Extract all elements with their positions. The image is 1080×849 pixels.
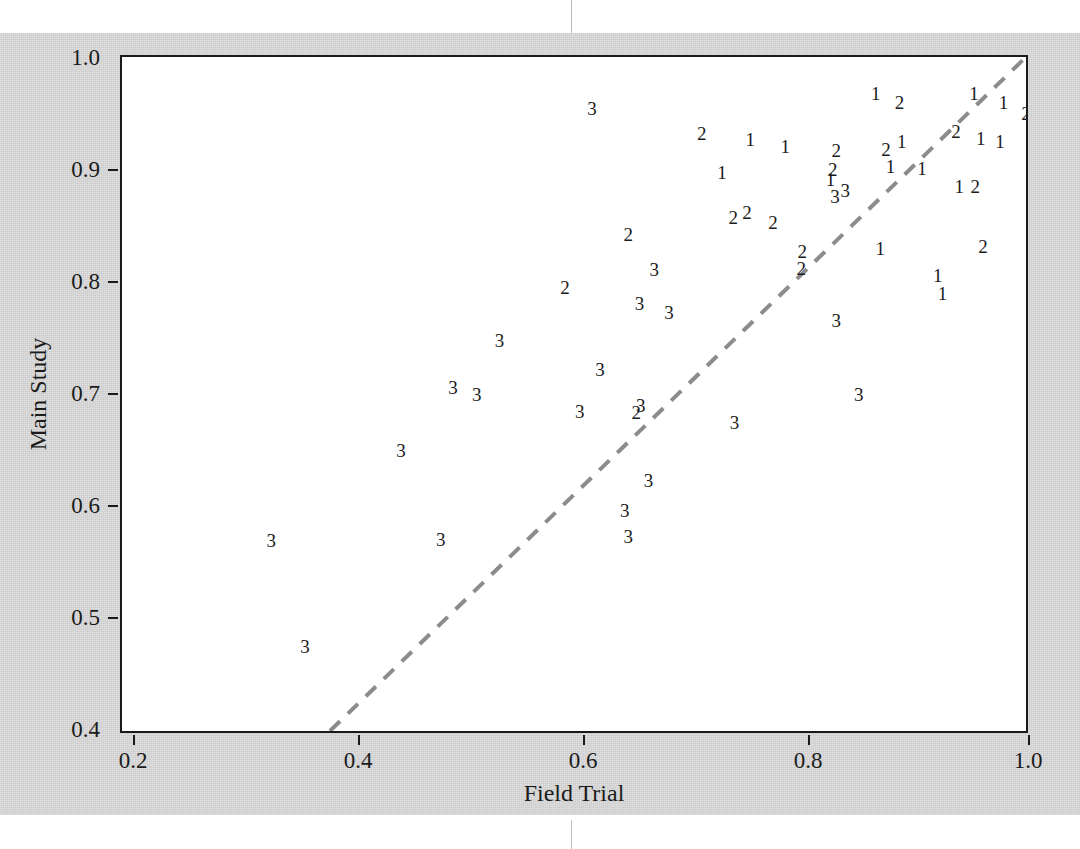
- x-tick-label-1.0: 1.0: [1014, 748, 1043, 774]
- x-axis-title: Field Trial: [524, 780, 625, 807]
- data-point-group-3: 3: [495, 331, 505, 350]
- y-tick-mark-0.5: [108, 617, 118, 619]
- data-point-group-2: 2: [951, 122, 961, 141]
- y-tick-label-0.8: 0.8: [71, 269, 106, 295]
- data-point-group-2: 2: [560, 278, 570, 297]
- data-point-group-3: 3: [830, 187, 840, 206]
- data-point-group-1: 1: [897, 132, 907, 151]
- y-tick-mark-0.9: [108, 169, 118, 171]
- data-point-group-1: 1: [999, 92, 1009, 111]
- data-point-group-1: 1: [717, 162, 727, 181]
- data-point-group-2: 2: [697, 124, 707, 143]
- data-point-group-3: 3: [266, 531, 276, 550]
- page-fold-line-top: [571, 0, 572, 33]
- data-point-group-3: 3: [831, 310, 841, 329]
- x-tick-mark-0.4: [358, 735, 360, 745]
- data-point-group-3: 3: [854, 385, 864, 404]
- data-point-group-2: 2: [623, 225, 633, 244]
- data-point-group-3: 3: [396, 441, 406, 460]
- y-tick-mark-0.8: [108, 281, 118, 283]
- data-point-group-2: 2: [828, 160, 838, 179]
- data-point-group-1: 1: [995, 132, 1005, 151]
- data-point-group-3: 3: [649, 260, 659, 279]
- x-tick-label-0.6: 0.6: [569, 748, 598, 774]
- data-point-group-3: 3: [644, 471, 654, 490]
- x-tick-label-0.4: 0.4: [344, 748, 373, 774]
- data-point-group-3: 3: [300, 636, 310, 655]
- data-point-group-1: 1: [917, 159, 927, 178]
- x-tick-mark-0.8: [808, 735, 810, 745]
- data-point-group-2: 2: [768, 213, 778, 232]
- data-point-group-2: 2: [970, 177, 980, 196]
- y-tick-label-1.0: 1.0: [71, 45, 106, 71]
- y-tick-mark-0.7: [108, 393, 118, 395]
- plot-area: 3211121122112211111212332222212231123333…: [122, 57, 1026, 731]
- data-point-group-3: 3: [575, 401, 585, 420]
- plot-frame: 3211121122112211111212332222212231123333…: [120, 55, 1028, 733]
- data-point-group-3: 3: [620, 500, 630, 519]
- data-point-group-1: 1: [969, 83, 979, 102]
- y-tick-mark-0.6: [108, 505, 118, 507]
- data-point-group-2: 2: [978, 236, 988, 255]
- data-point-group-3: 3: [840, 180, 850, 199]
- data-point-group-2: 2: [796, 259, 806, 278]
- data-point-group-1: 1: [976, 128, 986, 147]
- data-point-group-3: 3: [587, 98, 597, 117]
- data-point-group-3: 3: [636, 396, 646, 415]
- x-tick-mark-0.6: [583, 735, 585, 745]
- data-point-group-2: 2: [1021, 104, 1026, 123]
- data-point-group-3: 3: [730, 413, 740, 432]
- data-point-group-3: 3: [595, 360, 605, 379]
- data-point-group-3: 3: [635, 294, 645, 313]
- data-point-group-2: 2: [831, 141, 841, 160]
- y-axis-title: Main Study: [25, 338, 52, 451]
- data-point-group-3: 3: [664, 302, 674, 321]
- data-point-group-1: 1: [871, 83, 881, 102]
- data-point-group-2: 2: [742, 203, 752, 222]
- y-tick-label-0.4: 0.4: [71, 717, 106, 743]
- data-point-group-3: 3: [448, 378, 458, 397]
- x-tick-mark-1.0: [1028, 735, 1030, 745]
- data-point-group-2: 2: [895, 92, 905, 111]
- data-point-group-3: 3: [623, 526, 633, 545]
- page-fold-line-bottom: [571, 820, 572, 849]
- x-tick-label-0.2: 0.2: [119, 748, 148, 774]
- y-tick-label-0.6: 0.6: [71, 493, 106, 519]
- data-point-group-2: 2: [729, 207, 739, 226]
- data-point-group-1: 1: [875, 238, 885, 257]
- data-point-group-1: 1: [886, 156, 896, 175]
- x-tick-mark-0.2: [133, 735, 135, 745]
- data-point-group-1: 1: [746, 130, 756, 149]
- y-tick-label-0.9: 0.9: [71, 157, 106, 183]
- y-tick-label-0.5: 0.5: [71, 605, 106, 631]
- data-point-group-3: 3: [472, 385, 482, 404]
- data-point-group-3: 3: [436, 529, 446, 548]
- data-point-group-1: 1: [955, 177, 965, 196]
- data-point-group-1: 1: [938, 283, 948, 302]
- x-tick-label-0.8: 0.8: [794, 748, 823, 774]
- y-tick-label-0.7: 0.7: [71, 381, 106, 407]
- data-point-group-1: 1: [781, 136, 791, 155]
